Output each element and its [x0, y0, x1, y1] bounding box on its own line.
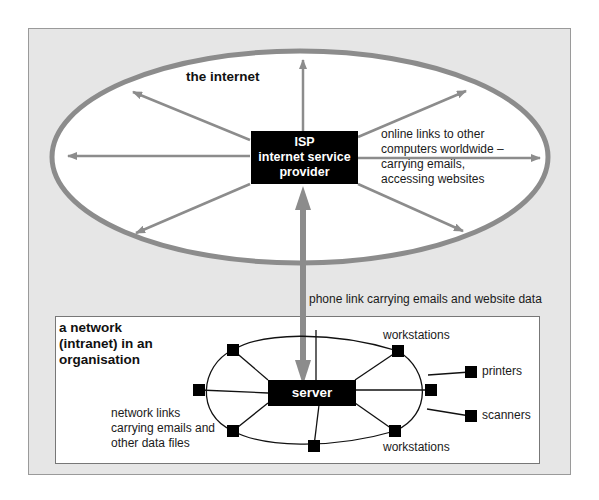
isp-node: ISP internet service provider [251, 131, 358, 184]
network-links-label: network links carrying emails and other … [111, 406, 215, 451]
server-label: server [292, 385, 333, 400]
isp-label-1: ISP [251, 135, 358, 150]
internet-title: the internet [186, 69, 260, 85]
printers-label: printers [482, 364, 522, 379]
intranet-title: a network (intranet) in an organisation [59, 320, 153, 368]
isp-label-2: internet service [251, 150, 358, 165]
scanners-label: scanners [482, 408, 531, 423]
workstations-top-label: workstations [383, 328, 450, 343]
isp-label-3: provider [251, 165, 358, 180]
diagram-graphics [0, 0, 599, 500]
internet-links-text: online links to other computers worldwid… [381, 127, 504, 187]
phone-link-label: phone link carrying emails and website d… [309, 292, 542, 307]
workstations-bottom-label: workstations [383, 440, 450, 455]
server-node: server [268, 380, 356, 406]
